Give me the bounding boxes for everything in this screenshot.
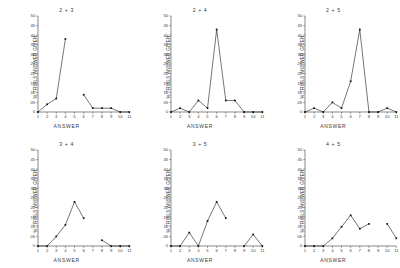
- y-tick-label: 0: [300, 243, 303, 248]
- data-point: [170, 111, 172, 113]
- x-tick-label: 6: [216, 114, 219, 119]
- data-point: [110, 107, 112, 109]
- x-tick-label: 5: [340, 114, 343, 119]
- data-point: [322, 111, 324, 113]
- data-point: [395, 111, 397, 113]
- y-tick-label: 20: [164, 205, 169, 210]
- y-tick-label: 45: [297, 23, 302, 28]
- x-tick-label: 2: [313, 114, 316, 119]
- x-tick-label: 7: [92, 114, 95, 119]
- data-point: [331, 102, 333, 104]
- x-tick-label: 11: [260, 248, 265, 253]
- x-tick-label: 3: [55, 248, 58, 253]
- x-tick-label: 4: [331, 114, 334, 119]
- y-tick-label: 20: [31, 205, 36, 210]
- y-tick-label: 45: [31, 157, 36, 162]
- y-tick-label: 50: [164, 148, 169, 153]
- x-tick-label: 3: [188, 114, 191, 119]
- x-tick-label: 11: [127, 248, 132, 253]
- data-point: [55, 236, 57, 238]
- y-tick-label: 0: [300, 109, 303, 114]
- data-point: [349, 214, 351, 216]
- x-tick-label: 2: [46, 248, 49, 253]
- data-point: [322, 245, 324, 247]
- y-tick-label: 40: [297, 33, 302, 38]
- x-tick-label: 8: [101, 114, 104, 119]
- x-tick-label: 5: [340, 248, 343, 253]
- data-point: [216, 29, 218, 31]
- x-tick-label: 11: [127, 114, 132, 119]
- x-tick-label: 10: [385, 248, 390, 253]
- data-point: [207, 107, 209, 109]
- data-point: [368, 223, 370, 225]
- x-tick-label: 4: [198, 114, 201, 119]
- y-tick-label: 30: [297, 52, 302, 57]
- y-tick-label: 15: [297, 215, 302, 220]
- x-tick-label: 9: [377, 248, 380, 253]
- y-tick-label: 50: [164, 14, 169, 19]
- x-tick-label: 3: [188, 248, 191, 253]
- x-tick-label: 7: [225, 248, 228, 253]
- y-tick-label: 35: [164, 176, 169, 181]
- x-tick-label: 1: [170, 248, 173, 253]
- y-tick-label: 05: [164, 100, 169, 105]
- chart-panel-2: 2 + 4% TRIALS ANSWER GIVENANSWER50454035…: [133, 0, 266, 134]
- data-point: [253, 111, 255, 113]
- x-tick-label: 10: [251, 248, 256, 253]
- data-point: [83, 217, 85, 219]
- x-tick-label: 3: [322, 114, 325, 119]
- y-tick-label: 45: [297, 157, 302, 162]
- x-tick-label: 8: [101, 248, 104, 253]
- y-tick-label: 35: [164, 42, 169, 47]
- data-point: [101, 239, 103, 241]
- data-point: [55, 98, 57, 100]
- x-tick-label: 8: [367, 114, 370, 119]
- x-tick-label: 1: [170, 114, 173, 119]
- x-tick-label: 3: [55, 114, 58, 119]
- y-tick-label: 10: [31, 90, 36, 95]
- data-point: [83, 94, 85, 96]
- y-tick-label: 0: [33, 109, 36, 114]
- plot-area: 5045403530252015100501234567891011: [267, 134, 400, 268]
- data-point: [189, 111, 191, 113]
- x-tick-label: 6: [82, 248, 85, 253]
- x-tick-label: 11: [394, 248, 399, 253]
- y-tick-label: 50: [297, 14, 302, 19]
- data-point: [170, 245, 172, 247]
- data-point: [253, 234, 255, 236]
- data-point: [216, 201, 218, 203]
- y-tick-label: 50: [297, 148, 302, 153]
- x-tick-label: 1: [303, 248, 306, 253]
- y-tick-label: 40: [164, 33, 169, 38]
- data-point: [234, 100, 236, 102]
- y-tick-label: 30: [31, 52, 36, 57]
- x-tick-label: 9: [110, 114, 113, 119]
- data-point: [349, 80, 351, 82]
- data-point: [359, 228, 361, 230]
- x-tick-label: 1: [37, 114, 40, 119]
- y-tick-label: 50: [31, 148, 36, 153]
- x-tick-label: 1: [303, 114, 306, 119]
- y-tick-label: 40: [297, 167, 302, 172]
- y-tick-label: 05: [297, 234, 302, 239]
- data-point: [304, 245, 306, 247]
- data-point: [386, 107, 388, 109]
- chart-panel-5: 3 + 5% TRIALS ANSWER GIVENANSWER50454035…: [133, 134, 266, 268]
- chart-panel-3: 2 + 5% TRIALS ANSWER GIVENANSWER50454035…: [267, 0, 400, 134]
- x-tick-label: 10: [251, 114, 256, 119]
- data-point: [313, 245, 315, 247]
- data-point: [180, 107, 182, 109]
- data-point: [340, 226, 342, 228]
- data-point: [198, 100, 200, 102]
- data-point: [189, 232, 191, 234]
- x-tick-label: 4: [198, 248, 201, 253]
- y-tick-label: 05: [164, 234, 169, 239]
- x-tick-label: 4: [64, 114, 67, 119]
- data-point: [74, 201, 76, 203]
- y-tick-label: 10: [31, 224, 36, 229]
- data-point: [359, 29, 361, 31]
- y-tick-label: 25: [164, 196, 169, 201]
- y-tick-label: 40: [31, 167, 36, 172]
- data-point: [225, 217, 227, 219]
- y-tick-label: 50: [31, 14, 36, 19]
